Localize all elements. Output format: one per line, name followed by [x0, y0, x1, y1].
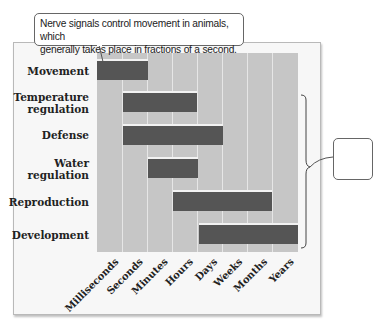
right-callout-box [333, 138, 373, 180]
bracket-icon [301, 95, 310, 248]
